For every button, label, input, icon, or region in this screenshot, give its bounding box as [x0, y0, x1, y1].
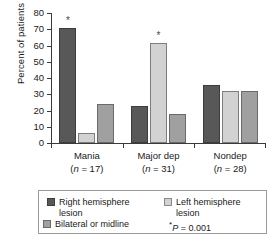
y-tick-label: 0 — [39, 137, 44, 148]
legend-item-right-hemisphere: Right hemisphere lesion — [47, 197, 130, 219]
legend-item-left-hemisphere-label: Left hemisphere lesion — [176, 197, 241, 219]
bilateral-swatch-icon — [43, 220, 51, 228]
legend-label-line1: Left hemisphere — [176, 197, 241, 207]
legend-label-line2: lesion — [176, 208, 241, 219]
y-tick: 70 — [47, 29, 51, 30]
y-tick-label: 50 — [33, 56, 44, 67]
p-value-note: *P = 0.001 — [169, 219, 211, 234]
x-category-name: Nondep — [214, 150, 247, 161]
y-tick-label: 60 — [33, 40, 44, 51]
bar — [169, 114, 186, 143]
legend-item-right-hemisphere-label: Right hemisphere lesion — [59, 197, 130, 219]
x-tick — [194, 144, 195, 148]
x-category-count: (n = 28) — [185, 163, 275, 176]
y-tick-label: 40 — [33, 72, 44, 83]
x-axis-category-labels: Mania(n = 17)Major dep(n = 31)Nondep(n =… — [51, 150, 266, 184]
bar — [203, 85, 220, 144]
x-category-label: Nondep(n = 28) — [185, 150, 275, 175]
plot-area: 01020304050607080 ** — [51, 13, 266, 143]
y-tick: 10 — [47, 127, 51, 128]
bar — [131, 106, 148, 143]
x-tick — [51, 144, 52, 148]
y-tick: 30 — [47, 94, 51, 95]
bar — [59, 28, 76, 143]
legend-item-bilateral-label: Bilateral or midline — [55, 219, 129, 230]
bar — [241, 91, 258, 143]
x-tick — [265, 144, 266, 148]
bar — [78, 133, 95, 143]
y-tick-label: 10 — [33, 121, 44, 132]
p-value-number: = 0.001 — [178, 223, 211, 233]
y-tick: 60 — [47, 46, 51, 47]
x-category-name: Major dep — [137, 150, 179, 161]
left-hemisphere-swatch-icon — [164, 198, 172, 206]
legend-label-line2: lesion — [59, 208, 130, 219]
legend-label-line1: Right hemisphere — [59, 197, 130, 207]
legend-item-bilateral: Bilateral or midline — [43, 219, 129, 230]
x-category-name: Mania — [74, 150, 100, 161]
bar-chart-figure: Percent of patients 01020304050607080 **… — [0, 0, 276, 245]
x-axis-line — [51, 143, 266, 144]
bar — [222, 91, 239, 143]
chart-legend: Right hemisphere lesion Left hemisphere … — [38, 190, 267, 234]
y-tick-label: 20 — [33, 105, 44, 116]
y-tick-label: 30 — [33, 88, 44, 99]
legend-item-left-hemisphere: Left hemisphere lesion — [164, 197, 241, 219]
significance-star: * — [66, 17, 70, 25]
bar — [97, 104, 114, 143]
y-tick-label: 70 — [33, 23, 44, 34]
y-tick: 20 — [47, 111, 51, 112]
x-tick — [123, 144, 124, 148]
y-tick-label: 80 — [33, 7, 44, 18]
y-axis-line — [51, 13, 52, 143]
y-tick: 80 — [47, 13, 51, 14]
bar-group — [59, 13, 114, 143]
bar — [150, 43, 167, 143]
y-tick: 50 — [47, 62, 51, 63]
y-axis-title: Percent of patients — [15, 0, 26, 99]
significance-star: * — [157, 32, 161, 40]
right-hemisphere-swatch-icon — [47, 198, 55, 206]
bar-group — [203, 13, 258, 143]
y-tick: 40 — [47, 78, 51, 79]
